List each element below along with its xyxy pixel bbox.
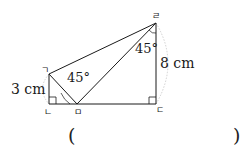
answer-close-paren: ) <box>233 124 240 146</box>
answer-blank[interactable] <box>80 126 230 148</box>
right-angle-mark-bottom-left <box>49 97 56 104</box>
angle-arc-top-right <box>149 30 156 33</box>
vertex-label-bottom-left: ㄴ <box>44 107 52 117</box>
length-label-left: 3 cm <box>11 81 45 97</box>
right-angle-mark-bottom-right <box>149 97 156 104</box>
segment-top-right-to-middle <box>77 23 156 104</box>
vertex-label-bottom-middle: ㅁ <box>74 107 82 117</box>
length-label-right: 8 cm <box>160 55 194 71</box>
answer-open-paren: ( <box>68 124 75 146</box>
vertex-label-top-left: ㄱ <box>41 65 49 75</box>
angle-label-top-right: 45° <box>135 41 158 56</box>
vertex-label-bottom-right: ㄷ <box>156 105 164 115</box>
angle-label-bottom-middle: 45° <box>67 70 90 85</box>
vertex-label-top-right: ㄹ <box>152 11 160 21</box>
